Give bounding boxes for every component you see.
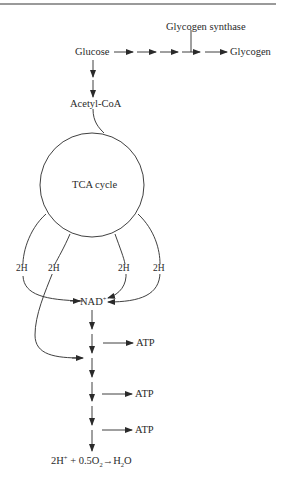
hydrogen-label: 2H <box>16 264 28 274</box>
tca-cycle-label: TCA cycle <box>72 180 117 191</box>
final-equation: 2H+ + 0.5O2→H2O <box>51 456 132 467</box>
nad-charge: + <box>103 295 107 302</box>
glucose-label: Glucose <box>75 47 109 58</box>
eq-hydrogen: 2H <box>51 455 64 466</box>
glycogen-label: Glycogen <box>230 47 271 58</box>
pathway-diagram <box>0 0 289 492</box>
acetyl-coa-label: Acetyl-CoA <box>70 99 121 110</box>
nad-text: NAD <box>80 296 103 307</box>
nad-label: NAD+ <box>80 297 106 308</box>
atp-label: ATP <box>135 425 154 436</box>
hydrogen-label: 2H <box>118 264 130 274</box>
atp-label: ATP <box>136 338 155 349</box>
hydrogen-label: 2H <box>153 264 165 274</box>
glycogen-synthase-label: Glycogen synthase <box>166 22 246 33</box>
eq-oxygen: + 0.5O <box>68 455 100 466</box>
eq-water-h: H <box>113 455 121 466</box>
hydrogen-label: 2H <box>48 264 60 274</box>
eq-arrow: → <box>103 455 114 466</box>
eq-water-o: O <box>124 455 132 466</box>
atp-label: ATP <box>135 389 154 400</box>
